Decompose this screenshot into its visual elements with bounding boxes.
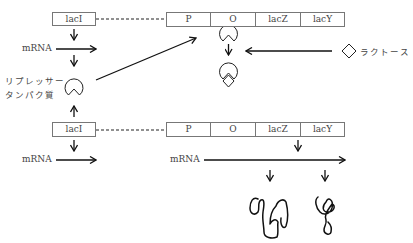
laci-label: lacI	[66, 124, 83, 134]
operator-label: O	[229, 124, 236, 134]
mrna-label-top: mRNA	[22, 43, 52, 53]
laci-gene-box-top: lacI	[52, 12, 96, 26]
protein-lacz-icon	[250, 198, 288, 238]
repressor-label-line2: タンパク質	[5, 88, 55, 100]
repressor-bound-icon	[220, 25, 238, 41]
lacz-label: lacZ	[268, 124, 288, 134]
protein-lacy-icon	[316, 197, 334, 234]
operator-segment: O	[211, 123, 256, 136]
laci-gene-box-bottom: lacI	[52, 122, 96, 137]
lacy-segment: lacY	[301, 13, 344, 26]
repressor-protein-icon	[65, 79, 83, 95]
lacz-segment: lacZ	[256, 13, 301, 26]
lactose-diamond-icon	[342, 44, 356, 58]
repressor-label-line1: リプレッサー	[5, 74, 65, 86]
arrow-diagonal-icon	[96, 38, 196, 80]
laci-label: lacI	[66, 14, 83, 24]
promoter-segment: P	[167, 123, 211, 136]
promoter-label: P	[185, 124, 191, 134]
lacz-segment: lacZ	[256, 123, 301, 136]
mrna-label-bottom-right: mRNA	[170, 154, 200, 164]
lactose-label: ラクトース	[360, 45, 410, 57]
lacy-segment: lacY	[301, 123, 344, 136]
lac-operon-box-bottom: P O lacZ lacY	[166, 122, 345, 137]
operator-label: O	[229, 14, 236, 24]
lac-operon-box-top: P O lacZ lacY	[166, 12, 345, 27]
lacy-label: lacY	[313, 124, 332, 134]
operator-segment: O	[211, 13, 256, 26]
promoter-segment: P	[167, 13, 211, 26]
mrna-label-bottom-left: mRNA	[22, 154, 52, 164]
promoter-label: P	[185, 14, 191, 24]
lacz-label: lacZ	[268, 14, 288, 24]
lacy-label: lacY	[313, 14, 332, 24]
